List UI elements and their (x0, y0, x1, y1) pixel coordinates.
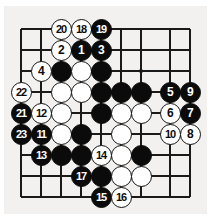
stone-white-move-20: 20 (51, 19, 72, 40)
stone-white-move-10: 10 (160, 124, 181, 145)
stone-white (131, 166, 152, 187)
stone-black-move-21: 21 (11, 103, 32, 124)
stone-black (51, 61, 72, 82)
stone-white (131, 103, 152, 124)
stone-white (111, 124, 132, 145)
stone-black-move-13: 13 (31, 145, 52, 166)
stone-black (91, 61, 112, 82)
stone-black (91, 103, 112, 124)
go-board-diagram: 2018192134225921126723111081314171516 (0, 0, 211, 221)
stone-white (71, 82, 92, 103)
stone-black-move-7: 7 (180, 103, 201, 124)
stone-black-move-1: 1 (71, 40, 92, 61)
stone-black-move-23: 23 (11, 124, 32, 145)
stone-black (91, 166, 112, 187)
stone-white-move-6: 6 (160, 103, 181, 124)
stone-white-move-22: 22 (11, 82, 32, 103)
stone-black (131, 82, 152, 103)
stone-white (111, 103, 132, 124)
stone-black (71, 124, 92, 145)
stone-black-move-5: 5 (160, 82, 181, 103)
stone-black (91, 82, 112, 103)
stone-black-move-17: 17 (71, 166, 92, 187)
stone-white-move-16: 16 (111, 187, 132, 208)
stone-white (71, 61, 92, 82)
stone-black (131, 145, 152, 166)
stone-black-move-19: 19 (91, 19, 112, 40)
stone-black (111, 82, 132, 103)
stone-black-move-9: 9 (180, 82, 201, 103)
stone-white-move-12: 12 (31, 103, 52, 124)
stone-black-move-3: 3 (91, 40, 112, 61)
stone-white-move-4: 4 (31, 61, 52, 82)
stone-white (51, 124, 72, 145)
stone-black (71, 145, 92, 166)
stone-white (51, 103, 72, 124)
stone-white-move-14: 14 (91, 145, 112, 166)
star-point (139, 69, 143, 73)
stone-white (111, 166, 132, 187)
stone-white-move-18: 18 (71, 19, 92, 40)
stone-black (51, 145, 72, 166)
stone-white (111, 145, 132, 166)
stone-white-move-8: 8 (180, 124, 201, 145)
stone-white (51, 82, 72, 103)
stone-black-move-15: 15 (91, 187, 112, 208)
stone-white-move-2: 2 (51, 40, 72, 61)
stone-black-move-11: 11 (31, 124, 52, 145)
